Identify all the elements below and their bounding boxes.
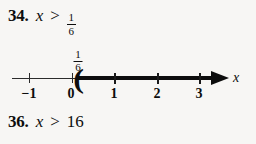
axis-line-unshaded [12, 78, 78, 79]
exercise-36-number: 36. [8, 113, 29, 130]
open-endpoint-paren-icon: ( [73, 65, 84, 93]
exercise-36: 36. x > 16 [8, 113, 84, 130]
axis-variable-label: x [233, 71, 239, 85]
tick-mark-two [157, 73, 159, 84]
number-line-figure: 1 6 ( −1 0 1 2 3 x [0, 34, 256, 106]
axis-line-solution-ray [78, 76, 214, 80]
tick-mark-one [114, 73, 116, 84]
exercise-34: 34. x > 1 6 [8, 7, 76, 37]
exercise-34-relation: > [50, 7, 60, 24]
exercise-36-variable: x [36, 113, 44, 130]
exercise-page: 34. x > 1 6 1 6 ( −1 0 [0, 0, 256, 144]
exercise-34-variable: x [36, 7, 44, 24]
tick-mark-minus-one [29, 73, 30, 83]
tick-label-two: 2 [154, 87, 161, 101]
exercise-36-relation: > [50, 113, 60, 130]
exercise-34-number: 34. [8, 7, 29, 24]
tick-label-minus-one: −1 [22, 87, 37, 101]
exercise-34-fraction-numerator: 1 [69, 12, 75, 24]
tick-mark-three [199, 73, 201, 84]
tick-label-one: 1 [111, 87, 118, 101]
exercise-36-value: 16 [67, 113, 84, 130]
endpoint-fraction-numerator: 1 [75, 49, 81, 61]
tick-label-three: 3 [196, 87, 203, 101]
arrow-right-icon [211, 71, 229, 85]
tick-label-zero: 0 [68, 87, 75, 101]
